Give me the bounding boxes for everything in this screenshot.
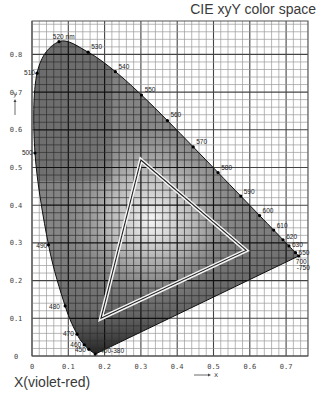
- svg-text:0.7: 0.7: [280, 363, 293, 371]
- svg-text:0.8: 0.8: [10, 51, 23, 59]
- svg-text:0: 0: [30, 363, 34, 371]
- svg-text:0.5: 0.5: [207, 363, 220, 371]
- svg-text:550: 550: [145, 86, 156, 93]
- svg-text:600: 600: [263, 207, 274, 214]
- svg-text:0.5: 0.5: [10, 164, 23, 172]
- svg-text:560: 560: [170, 111, 181, 118]
- svg-text:0.2: 0.2: [98, 363, 111, 371]
- svg-text:0.3: 0.3: [10, 239, 23, 247]
- svg-text:610: 610: [277, 222, 288, 229]
- svg-text:620: 620: [286, 233, 297, 240]
- svg-text:y: y: [13, 90, 17, 98]
- svg-text:570: 570: [196, 138, 207, 145]
- svg-text:-750: -750: [297, 264, 310, 271]
- svg-text:0.6: 0.6: [10, 126, 23, 134]
- svg-text:510: 510: [24, 69, 35, 76]
- svg-text:650: 650: [299, 249, 310, 256]
- svg-text:400-380: 400-380: [100, 347, 124, 354]
- svg-text:580: 580: [221, 164, 232, 171]
- svg-text:630: 630: [292, 241, 303, 248]
- svg-text:0.3: 0.3: [135, 363, 148, 371]
- x-axis-caption: X(violet-red): [14, 374, 90, 390]
- svg-text:0.4: 0.4: [10, 202, 23, 210]
- svg-text:480: 480: [49, 303, 60, 310]
- svg-text:450: 450: [75, 346, 86, 353]
- svg-text:x: x: [214, 371, 218, 379]
- svg-text:0.6: 0.6: [243, 363, 256, 371]
- svg-text:470: 470: [63, 330, 74, 337]
- svg-text:520 nm: 520 nm: [53, 33, 75, 40]
- svg-text:0.2: 0.2: [10, 277, 23, 285]
- svg-text:490: 490: [36, 242, 47, 249]
- svg-text:590: 590: [244, 188, 255, 195]
- svg-text:0.4: 0.4: [171, 363, 184, 371]
- svg-text:530: 530: [91, 43, 102, 50]
- cie-chart: 520 nm5305405505605705805906006106206306…: [0, 0, 322, 397]
- svg-text:0: 0: [14, 353, 18, 361]
- svg-text:500: 500: [22, 149, 33, 156]
- svg-text:540: 540: [118, 63, 129, 70]
- svg-text:0.1: 0.1: [10, 315, 23, 323]
- svg-text:0.1: 0.1: [62, 363, 75, 371]
